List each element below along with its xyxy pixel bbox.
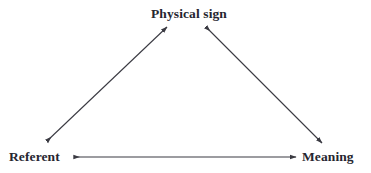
node-label-referent: Referent [9,150,60,164]
node-label-meaning: Meaning [302,150,354,164]
semiotic-triangle-diagram: Physical sign Referent Meaning [0,0,371,173]
node-label-physical-sign: Physical sign [151,7,227,21]
edge-physical-sign-meaning [206,27,322,143]
edge-referent-physical-sign [47,27,167,141]
triangle-arrows-graphic [0,0,371,173]
